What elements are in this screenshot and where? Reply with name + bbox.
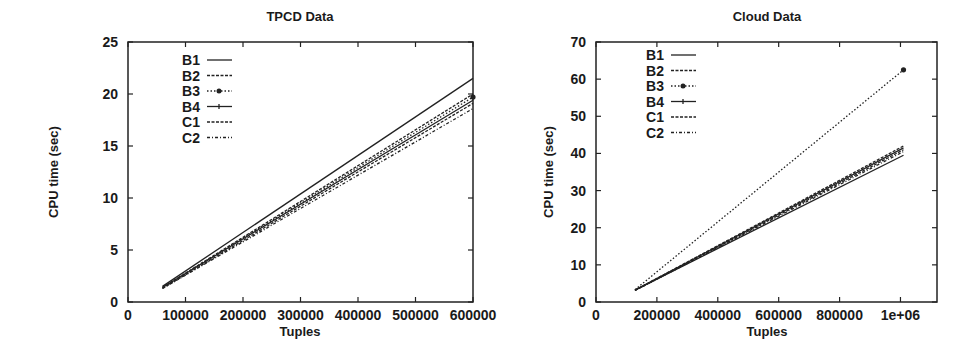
chart-tpcd: TPCD Data CPU time (sec) Tuples 01000002…	[46, 9, 497, 339]
legend-label: B1	[646, 47, 664, 63]
point-marker	[901, 67, 906, 72]
series-line-c2	[163, 109, 474, 289]
x-tick-label: 0	[124, 307, 132, 323]
x-tick-label: 300000	[277, 307, 324, 323]
series-line-c1	[163, 103, 474, 288]
charts-canvas: TPCD Data CPU time (sec) Tuples 01000002…	[0, 0, 980, 361]
x-tick-label: 400000	[335, 307, 382, 323]
series-lines	[635, 67, 906, 290]
series-lines	[163, 78, 476, 288]
legend-label: B4	[646, 94, 664, 110]
legend-label: B2	[182, 68, 200, 84]
x-tick-label: 1e+06	[881, 307, 921, 323]
x-tick-label: 0	[592, 307, 600, 323]
x-tick-label: 100000	[162, 307, 209, 323]
x-tick-label: 500000	[392, 307, 439, 323]
plot-area	[128, 42, 473, 302]
legend-label: B2	[646, 63, 664, 79]
y-tick-label: 25	[102, 34, 118, 50]
y-tick-label: 10	[102, 190, 118, 206]
legend-label: C2	[646, 125, 664, 141]
series-line-b2	[163, 94, 474, 287]
x-axis-label: Tuples	[747, 324, 788, 339]
chart-cloud: Cloud Data CPU time (sec) Tuples 0200000…	[541, 9, 937, 339]
y-tick-label: 60	[570, 71, 586, 87]
point-marker	[470, 95, 475, 100]
series-line-b1	[163, 78, 474, 286]
legend-label: B3	[182, 83, 200, 99]
x-tick-label: 400000	[694, 307, 741, 323]
x-tick-label: 200000	[220, 307, 267, 323]
legend: B1B2B3B4C1C2	[182, 52, 232, 146]
legend-label: B4	[182, 99, 200, 115]
y-tick-label: 40	[570, 145, 586, 161]
y-tick-label: 20	[102, 86, 118, 102]
legend-label: C1	[182, 114, 200, 130]
x-tick-label: 200000	[634, 307, 681, 323]
y-tick-label: 15	[102, 138, 118, 154]
series-line-b4	[163, 100, 474, 287]
legend-label: B1	[182, 52, 200, 68]
x-tick-label: 600000	[755, 307, 802, 323]
figure: TPCD Data CPU time (sec) Tuples 01000002…	[0, 0, 980, 361]
legend-label: C1	[646, 109, 664, 125]
legend-label: C2	[182, 130, 200, 146]
legend-label: B3	[646, 78, 664, 94]
y-tick-label: 70	[570, 34, 586, 50]
y-axis-label: CPU time (sec)	[541, 126, 556, 218]
y-ticks: 010203040506070	[570, 34, 937, 310]
y-tick-label: 0	[578, 294, 586, 310]
x-ticks: 0100000200000300000400000500000600000	[124, 42, 496, 323]
y-tick-label: 0	[110, 294, 118, 310]
y-axis-label: CPU time (sec)	[46, 126, 61, 218]
x-ticks: 02000004000006000008000001e+06	[592, 42, 920, 323]
series-line-c2	[635, 152, 904, 291]
chart-title: TPCD Data	[266, 9, 334, 24]
chart-title: Cloud Data	[733, 9, 802, 24]
legend: B1B2B3B4C1C2	[646, 47, 696, 141]
y-tick-label: 30	[570, 183, 586, 199]
y-tick-label: 20	[570, 220, 586, 236]
y-tick-label: 50	[570, 108, 586, 124]
x-axis-label: Tuples	[280, 324, 321, 339]
y-ticks: 0510152025	[102, 34, 473, 310]
y-tick-label: 5	[110, 242, 118, 258]
x-tick-label: 600000	[450, 307, 497, 323]
series-line-b3	[635, 70, 904, 290]
x-tick-label: 800000	[816, 307, 863, 323]
y-tick-label: 10	[570, 257, 586, 273]
